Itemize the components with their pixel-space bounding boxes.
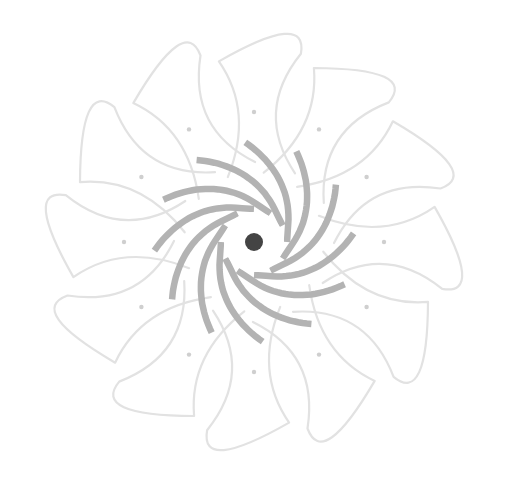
petal-crossing-point [364, 175, 368, 179]
petal-crossing-point [139, 305, 143, 309]
petal-crossing-point [382, 240, 386, 244]
petal-crossing-point [317, 352, 321, 356]
petal-crossing-point [252, 370, 256, 374]
petal-crossing-point [187, 352, 191, 356]
center-dot [245, 233, 263, 251]
petal-loop [297, 121, 454, 243]
petal-crossing-point [122, 240, 126, 244]
petal-loop [54, 241, 211, 363]
petal-crossing-point [317, 127, 321, 131]
spiral-flower-canvas [0, 0, 506, 491]
petal-crossing-point [364, 305, 368, 309]
petal-crossing-point [252, 110, 256, 114]
petal-crossing-point [139, 175, 143, 179]
petal-loop [133, 42, 255, 199]
petal-crossing-point [187, 127, 191, 131]
petal-loop [253, 285, 375, 442]
